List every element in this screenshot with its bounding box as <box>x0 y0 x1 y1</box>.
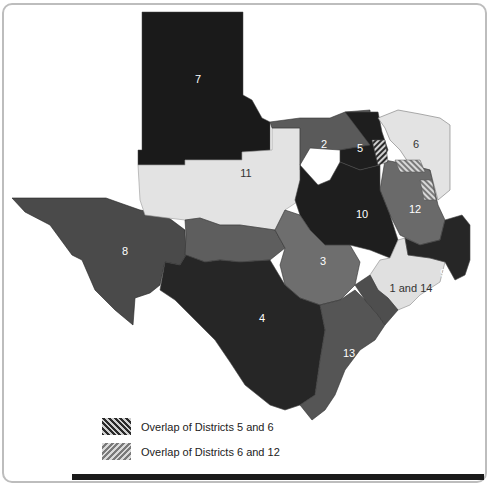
dark-hatch-swatch-icon <box>102 418 131 435</box>
district-9-label: 9 <box>440 267 446 279</box>
bottom-bar <box>72 474 484 480</box>
map-legend: Overlap of Districts 5 and 6 Overlap of … <box>102 414 280 464</box>
district-5-label: 5 <box>357 142 363 154</box>
district-1-and-14-label: 1 and 14 <box>390 282 433 294</box>
district-13-label: 13 <box>343 347 355 359</box>
district-4-label: 4 <box>259 312 265 324</box>
legend-item-overlap-5-6: Overlap of Districts 5 and 6 <box>102 414 280 439</box>
district-12-label: 12 <box>409 203 421 215</box>
district-7-label: 7 <box>195 73 201 85</box>
light-hatch-swatch-icon <box>102 443 131 460</box>
district-3-label: 3 <box>320 255 326 267</box>
legend-label: Overlap of Districts 5 and 6 <box>141 421 274 433</box>
district-10-label: 10 <box>356 208 368 220</box>
district-11-label: 11 <box>240 167 251 179</box>
district-8-label: 8 <box>122 245 128 257</box>
legend-item-overlap-6-12: Overlap of Districts 6 and 12 <box>102 439 280 464</box>
district-7-region[interactable] <box>138 12 270 165</box>
district-2-label: 2 <box>321 138 327 150</box>
overlap-6-12-region[interactable] <box>395 160 425 172</box>
district-6-label: 6 <box>413 138 419 150</box>
legend-label: Overlap of Districts 6 and 12 <box>141 446 280 458</box>
